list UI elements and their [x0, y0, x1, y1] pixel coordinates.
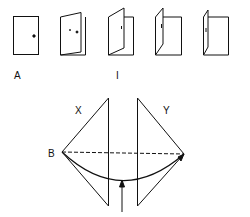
label-i: I — [116, 71, 119, 81]
door-fully-open — [204, 10, 229, 55]
label-x: X — [75, 106, 82, 116]
door-mostly-open — [156, 8, 182, 55]
door-diagram — [0, 0, 250, 217]
door-closed — [14, 17, 39, 55]
right-panel-y — [138, 98, 185, 206]
label-y: Y — [163, 106, 170, 116]
door-half-open — [109, 8, 134, 55]
label-b: B — [48, 149, 55, 159]
dashed-line — [62, 152, 184, 154]
label-a: A — [14, 71, 21, 81]
door-slightly-open — [61, 13, 86, 56]
swing-arc — [62, 152, 184, 181]
